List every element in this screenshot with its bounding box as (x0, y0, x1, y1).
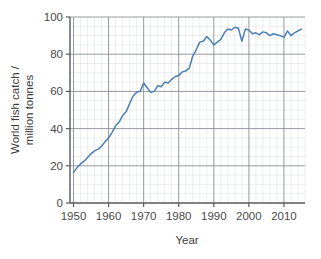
y-tick-label: 0 (57, 197, 63, 209)
y-tick-label: 60 (50, 85, 63, 97)
y-axis-title-group: World fish catch / million tonnes (9, 65, 35, 154)
x-tick-label: 2000 (236, 210, 262, 222)
x-tick-label: 1990 (201, 210, 227, 222)
y-tick-label: 100 (44, 11, 63, 23)
x-tick-label: 1950 (61, 210, 87, 222)
minor-gridlines (70, 17, 305, 203)
chart-canvas: 020406080100 195019601970198019902000201… (0, 0, 321, 259)
x-tick-labels: 1950196019701980199020002010 (61, 210, 297, 222)
y-tick-labels: 020406080100 (44, 11, 63, 209)
y-tick-label: 80 (50, 48, 63, 60)
x-tick-label: 2010 (271, 210, 297, 222)
x-axis-title: Year (175, 234, 198, 246)
y-tick-label: 40 (50, 123, 63, 135)
x-tick-label: 1960 (96, 210, 122, 222)
y-tick-label: 20 (50, 160, 63, 172)
x-tick-label: 1970 (131, 210, 157, 222)
x-tick-label: 1980 (166, 210, 192, 222)
y-axis-title-line2: million tonnes (23, 75, 35, 146)
x-axis-title-group: Year (175, 234, 198, 246)
y-axis-title-line1: World fish catch / (9, 65, 21, 154)
fish-catch-line-chart: 020406080100 195019601970198019902000201… (0, 0, 321, 259)
